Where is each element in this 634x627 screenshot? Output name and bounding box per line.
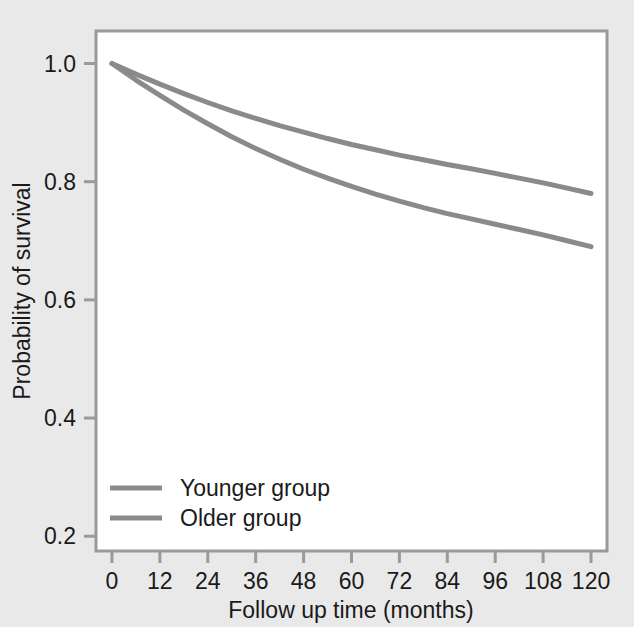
x-axis-tick-label: 120: [572, 568, 610, 594]
legend-label-0: Younger group: [180, 475, 330, 501]
x-axis-tick-label: 96: [482, 568, 508, 594]
y-axis-tick-label: 0.4: [44, 405, 76, 431]
y-axis-tick-label: 0.2: [44, 523, 76, 549]
x-axis-tick-label: 24: [195, 568, 221, 594]
x-axis-tick-label: 72: [387, 568, 413, 594]
survival-chart-svg: 0.20.40.60.81.0 01224364860728496108120 …: [0, 0, 634, 627]
x-axis-tick-label: 84: [435, 568, 461, 594]
x-axis-tick-label: 60: [339, 568, 365, 594]
survival-curve-figure: 0.20.40.60.81.0 01224364860728496108120 …: [0, 0, 634, 627]
x-axis-tick-label: 48: [291, 568, 317, 594]
legend-label-1: Older group: [180, 505, 301, 531]
x-axis-tick-label: 0: [106, 568, 119, 594]
y-axis-tick-label: 0.6: [44, 287, 76, 313]
y-axis-tick-label: 1.0: [44, 51, 76, 77]
plot-area-background: [96, 31, 607, 551]
y-axis-tick-label: 0.8: [44, 169, 76, 195]
x-axis-tick-label: 108: [524, 568, 562, 594]
x-axis-tick-label: 12: [147, 568, 173, 594]
x-axis-tick-label: 36: [243, 568, 269, 594]
x-axis-title: Follow up time (months): [228, 597, 473, 623]
y-axis-title: Probability of survival: [9, 182, 35, 399]
